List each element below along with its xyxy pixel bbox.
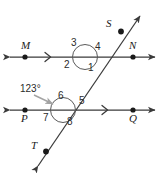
angle-label-1: 1 <box>88 63 94 73</box>
point-dot-t <box>43 149 49 155</box>
point-label-q: Q <box>129 113 137 124</box>
point-dot-s <box>118 29 124 35</box>
angle-label-2: 2 <box>64 60 70 70</box>
line-mn <box>10 52 155 61</box>
angle-label-7: 7 <box>43 113 49 123</box>
line-st-transversal <box>38 16 140 166</box>
angle-label-5: 5 <box>79 96 85 106</box>
angle-label-3: 3 <box>71 38 77 48</box>
angle-label-6: 6 <box>58 91 64 101</box>
point-label-m: M <box>21 40 30 51</box>
point-dot-n <box>130 54 135 59</box>
callout-pointer-icon <box>34 95 53 104</box>
point-label-t: T <box>31 140 37 151</box>
geometry-figure: M N P Q S T 3 4 2 1 6 5 7 8 123° <box>0 0 165 173</box>
point-label-s: S <box>106 18 112 29</box>
point-label-p: P <box>21 113 28 124</box>
angle-label-4: 4 <box>95 42 101 52</box>
point-label-n: N <box>129 40 136 51</box>
angle-label-8: 8 <box>67 117 73 127</box>
point-dot-m <box>22 54 27 59</box>
given-angle-measure: 123° <box>20 84 41 94</box>
